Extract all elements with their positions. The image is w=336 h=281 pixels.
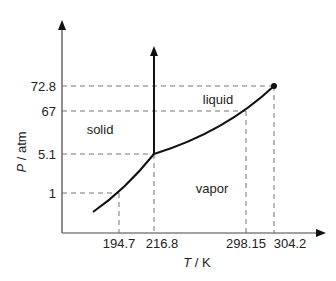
region-solid: solid xyxy=(87,122,114,137)
x-axis-title: T / K xyxy=(183,255,211,270)
x-tick-216-8: 216.8 xyxy=(146,236,179,251)
sublimation-curve xyxy=(93,154,154,212)
y-axis-title: P / atm xyxy=(14,131,29,172)
y-tick-72-8: 72.8 xyxy=(31,79,56,94)
y-tick-5-1: 5.1 xyxy=(38,147,56,162)
y-tick-67: 67 xyxy=(42,104,56,119)
region-liquid: liquid xyxy=(203,92,233,107)
y-tick-1: 1 xyxy=(49,186,56,201)
melting-arrow-icon xyxy=(150,46,158,56)
x-tick-194-7: 194.7 xyxy=(103,236,136,251)
region-vapor: vapor xyxy=(196,181,229,196)
x-tick-298-15: 298.15 xyxy=(226,236,266,251)
y-axis-arrow-icon xyxy=(58,20,66,30)
phase-diagram: 72.8 67 5.1 1 194.7 216.8 298.15 304.2 s… xyxy=(0,0,336,281)
x-tick-304-2: 304.2 xyxy=(274,236,307,251)
x-axis-arrow-icon xyxy=(316,229,326,237)
critical-point xyxy=(271,83,277,89)
